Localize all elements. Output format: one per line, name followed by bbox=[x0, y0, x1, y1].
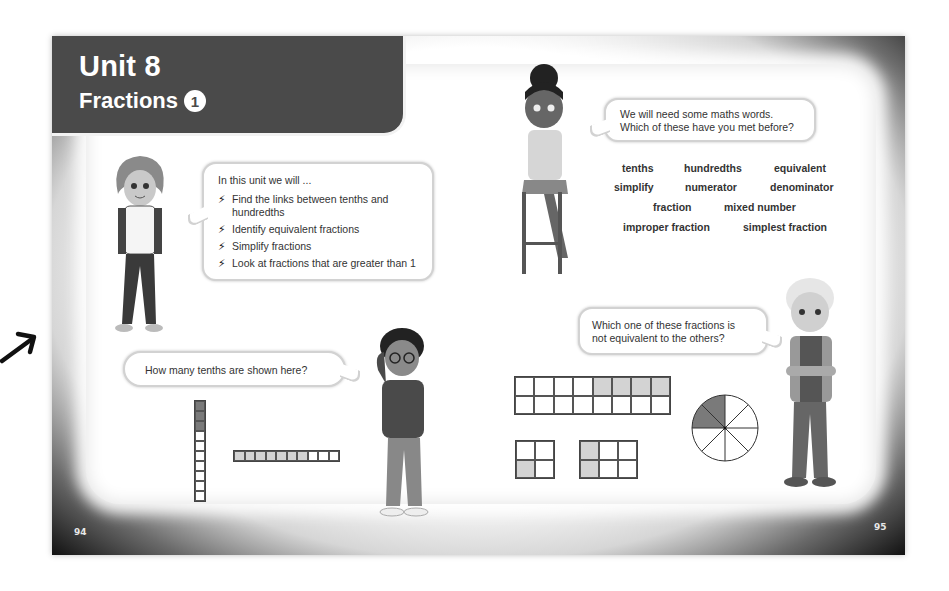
character-girl-left bbox=[100, 154, 180, 339]
equivalence-line-2: not equivalent to the others? bbox=[592, 332, 754, 345]
vocab-word: simplest fraction bbox=[743, 221, 827, 233]
lightning-bolt-icon: ⚡︎ bbox=[218, 240, 228, 253]
vocab-word: hundredths bbox=[684, 162, 742, 174]
tenths-speech-bubble: How many tenths are shown here? bbox=[123, 351, 346, 387]
intro-list: ⚡︎Find the links between tenths and hund… bbox=[218, 193, 418, 270]
vocab-word: denominator bbox=[770, 181, 834, 193]
intro-list-item: ⚡︎Look at fractions that are greater tha… bbox=[218, 257, 418, 270]
page-number-right: 95 bbox=[874, 522, 887, 532]
vocab-line-1: We will need some maths words. bbox=[620, 108, 800, 121]
fraction-grid-2x2 bbox=[515, 440, 555, 479]
vertical-tenths-strip bbox=[194, 400, 206, 502]
tenths-question: How many tenths are shown here? bbox=[145, 364, 332, 377]
equivalence-speech-bubble: Which one of these fractions is not equi… bbox=[578, 307, 768, 355]
fraction-pie-eighths bbox=[690, 393, 760, 463]
page-number-left: 94 bbox=[74, 527, 87, 537]
unit-subtitle-text: Fractions bbox=[79, 88, 178, 114]
intro-heading: In this unit we will ... bbox=[218, 174, 418, 187]
arrow-up-right-icon bbox=[0, 325, 40, 365]
intro-list-item: ⚡︎Find the links between tenths and hund… bbox=[218, 193, 418, 219]
vocab-word: equivalent bbox=[774, 162, 826, 174]
intro-speech-bubble: In this unit we will ... ⚡︎Find the link… bbox=[202, 162, 434, 281]
textbook-spread: Unit 8 Fractions 1 bbox=[52, 36, 905, 555]
unit-banner: Unit 8 Fractions 1 bbox=[52, 36, 406, 136]
fraction-grid-3x2 bbox=[579, 440, 638, 479]
lightning-bolt-icon: ⚡︎ bbox=[218, 257, 228, 270]
character-girl-stool bbox=[514, 62, 582, 278]
vocab-word: tenths bbox=[622, 162, 654, 174]
lightning-bolt-icon: ⚡︎ bbox=[218, 193, 228, 219]
equivalence-line-1: Which one of these fractions is bbox=[592, 319, 754, 332]
vocab-word: fraction bbox=[653, 201, 692, 213]
character-boy-glasses bbox=[364, 324, 444, 524]
intro-list-item: ⚡︎Simplify fractions bbox=[218, 240, 418, 253]
vocab-speech-bubble: We will need some maths words. Which of … bbox=[604, 98, 816, 142]
character-boy-blonde bbox=[774, 274, 844, 496]
unit-subtitle: Fractions 1 bbox=[79, 88, 206, 114]
vocab-word: mixed number bbox=[724, 201, 796, 213]
lightning-bolt-icon: ⚡︎ bbox=[218, 223, 228, 236]
unit-title: Unit 8 bbox=[79, 50, 161, 83]
fraction-grid-8x2 bbox=[514, 376, 671, 415]
vocab-word: improper fraction bbox=[623, 221, 710, 233]
unit-part-badge: 1 bbox=[184, 90, 206, 112]
intro-list-item: ⚡︎Identify equivalent fractions bbox=[218, 223, 418, 236]
vocab-word: simplify bbox=[614, 181, 654, 193]
horizontal-tenths-strip bbox=[233, 450, 340, 462]
vocab-line-2: Which of these have you met before? bbox=[620, 121, 800, 134]
vocab-word: numerator bbox=[685, 181, 737, 193]
